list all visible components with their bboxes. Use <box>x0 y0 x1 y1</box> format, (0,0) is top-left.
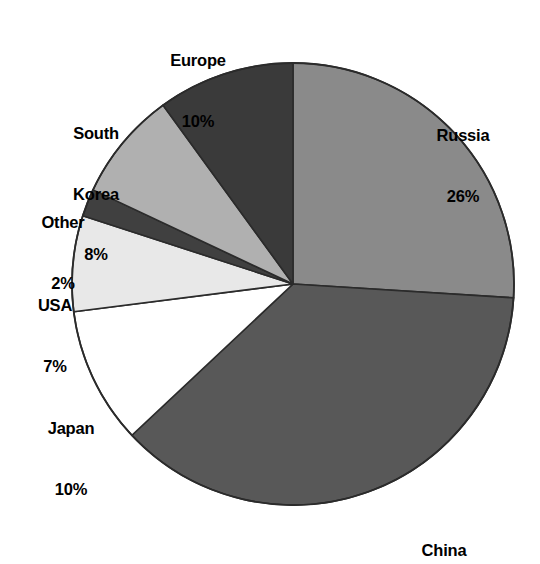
slice-label-europe: Europe 10% <box>146 10 250 171</box>
slice-label-china-name: China <box>398 540 490 560</box>
slice-label-usa-value: 7% <box>13 356 97 376</box>
pie-chart: Europe 10% South Korea 8% Other 2% USA 7… <box>0 0 540 564</box>
slice-label-usa-name: USA <box>13 295 97 315</box>
slice-label-japan-name: Japan <box>28 418 114 438</box>
slice-label-europe-value: 10% <box>146 111 250 131</box>
slice-label-russia-value: 26% <box>414 186 512 206</box>
slice-label-japan-value: 10% <box>28 479 114 499</box>
slice-label-russia: Russia 26% <box>414 85 512 246</box>
slice-label-china: China 37% <box>398 500 490 564</box>
slice-label-south-korea-name-line1: South <box>48 123 144 143</box>
slice-label-other-name: Other <box>20 212 106 232</box>
slice-label-russia-name: Russia <box>414 125 512 145</box>
slice-label-japan: Japan 10% <box>28 378 114 539</box>
slice-label-europe-name: Europe <box>146 50 250 70</box>
